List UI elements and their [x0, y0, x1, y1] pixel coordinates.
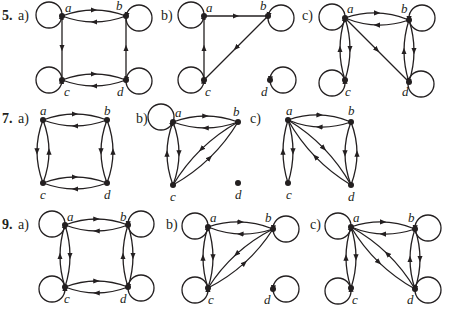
- self-loop-d: [128, 275, 154, 301]
- edge-a-d: [288, 120, 351, 185]
- edge-d-c: [65, 287, 128, 293]
- edge-b-c: [173, 122, 238, 185]
- vertex-b: [265, 13, 271, 19]
- problem-number-9: 9.: [2, 217, 13, 232]
- self-loop-c: [178, 67, 204, 93]
- arrow-icon: [242, 263, 244, 265]
- graph-5b: abcd: [178, 0, 296, 99]
- part-label-7c: c): [250, 111, 261, 127]
- part-label-7a: a): [18, 111, 29, 127]
- vertex-b: [406, 17, 412, 23]
- self-loop-a: [182, 213, 208, 239]
- vertex-d: [123, 77, 129, 83]
- edge-a-b: [288, 115, 351, 122]
- vertex-label-c: c: [286, 187, 292, 202]
- edge-a-c: [288, 120, 293, 183]
- edge-a-b: [173, 116, 238, 122]
- vertex-label-d: d: [104, 187, 111, 202]
- self-loop-a: [39, 211, 65, 237]
- vertex-c: [285, 180, 291, 186]
- graph-9b: abcd: [182, 210, 299, 307]
- edge-b-d: [101, 120, 107, 183]
- edge-d-b: [123, 225, 128, 287]
- self-loop-b: [273, 216, 299, 242]
- edge-a-b: [43, 114, 107, 120]
- self-loop-c: [319, 70, 345, 96]
- self-loop-d: [415, 277, 441, 303]
- edge-c-d: [43, 177, 107, 183]
- graph-9c: abcd: [325, 210, 441, 307]
- part-label-5a: a): [18, 8, 29, 24]
- vertex-label-a: a: [206, 0, 213, 15]
- vertex-d: [104, 180, 110, 186]
- vertex-label-d: d: [235, 187, 242, 202]
- part-label-9c: c): [310, 217, 321, 233]
- edge-b-d: [409, 20, 414, 82]
- edge-a-c: [208, 227, 213, 288]
- self-loop-a: [325, 213, 351, 239]
- vertex-label-b: b: [348, 103, 355, 118]
- self-loop-d: [273, 276, 299, 302]
- edge-c-d: [62, 74, 126, 80]
- arrow-icon: [375, 48, 377, 50]
- vertex-c: [62, 284, 68, 290]
- self-loop-d: [408, 71, 434, 97]
- vertex-c: [170, 182, 176, 188]
- edge-b-a: [65, 225, 128, 231]
- edge-a-b: [351, 222, 415, 229]
- vertex-b: [412, 226, 418, 232]
- vertex-label-c: c: [40, 187, 46, 202]
- problem-number-5: 5.: [2, 8, 13, 23]
- edge-a-b: [345, 13, 409, 20]
- edge-a-c: [351, 227, 356, 288]
- self-loop-b: [409, 5, 435, 31]
- vertex-c: [205, 285, 211, 291]
- part-label-5c: c): [302, 8, 313, 24]
- vertex-d: [125, 284, 131, 290]
- edge-d-a: [351, 227, 415, 289]
- edge-c-a: [283, 120, 288, 183]
- self-loop-c: [36, 67, 62, 93]
- graph-5a: abcd: [36, 0, 152, 99]
- self-loop-c: [182, 277, 208, 303]
- vertex-label-c: c: [352, 292, 358, 307]
- edge-c-b: [173, 122, 238, 185]
- vertex-c: [342, 77, 348, 83]
- edge-a-c: [345, 18, 350, 80]
- vertex-label-c: c: [345, 84, 351, 99]
- edge-d-c: [43, 183, 107, 189]
- vertex-c: [59, 77, 65, 83]
- vertex-label-d: d: [348, 189, 355, 204]
- edge-c-d: [65, 281, 128, 287]
- vertex-d: [267, 77, 273, 83]
- vertex-label-d: d: [264, 292, 271, 307]
- vertex-b: [348, 119, 354, 125]
- self-loop-b: [268, 5, 294, 31]
- vertex-d: [235, 180, 241, 186]
- self-loop-a: [178, 2, 204, 28]
- vertex-c: [348, 285, 354, 291]
- vertex-label-c: c: [64, 84, 70, 99]
- vertex-label-a: a: [286, 103, 293, 118]
- vertex-c: [40, 180, 46, 186]
- part-label-9b: b): [166, 217, 178, 233]
- vertex-b: [235, 119, 241, 125]
- self-loop-c: [325, 278, 351, 304]
- vertex-c: [201, 77, 207, 83]
- graphs-layer: abcdabcdabcdabcdabcdabcdabcdabcdabcd: [36, 0, 441, 307]
- self-loop-a: [148, 104, 174, 130]
- edge-d-b: [410, 229, 415, 289]
- self-loop-a: [36, 2, 62, 28]
- vertex-label-b: b: [120, 209, 127, 224]
- graph-7a: abcd: [37, 103, 113, 202]
- arrow-icon: [387, 254, 389, 256]
- arrow-icon: [377, 260, 379, 262]
- vertex-label-c: c: [205, 84, 211, 99]
- edge-a-b: [65, 219, 128, 225]
- self-loop-b: [126, 5, 152, 31]
- edge-d-b: [404, 20, 409, 82]
- self-loop-b: [415, 215, 441, 241]
- vertex-label-d: d: [402, 84, 409, 99]
- edge-c-b: [208, 229, 273, 288]
- graph-7b: abcd: [148, 104, 242, 204]
